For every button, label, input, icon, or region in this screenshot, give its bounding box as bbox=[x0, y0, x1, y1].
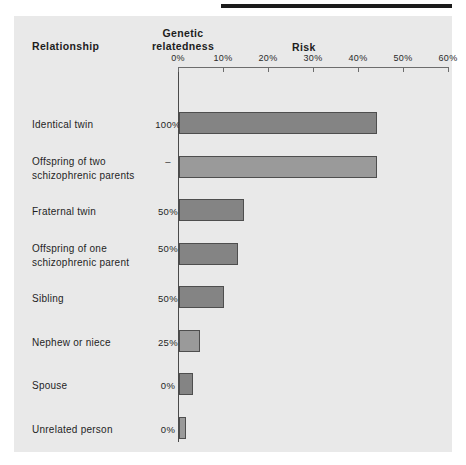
bar-risk bbox=[179, 112, 377, 134]
bar-risk bbox=[179, 417, 186, 439]
bar-risk bbox=[179, 199, 244, 221]
x-axis-tick-label: 0% bbox=[171, 53, 185, 63]
row-label-relationship: Nephew or niece bbox=[32, 336, 111, 350]
x-axis-tick bbox=[268, 67, 269, 72]
bar-risk bbox=[179, 286, 224, 308]
chart-panel: Relationship Genetic relatedness Risk 0%… bbox=[14, 16, 452, 452]
bar-risk bbox=[179, 373, 193, 395]
bar-risk bbox=[179, 243, 238, 265]
row-label-relationship: Unrelated person bbox=[32, 423, 113, 437]
x-axis-tick bbox=[313, 67, 314, 72]
x-axis-tick-label: 10% bbox=[214, 53, 233, 63]
x-axis-tick-label: 30% bbox=[304, 53, 323, 63]
x-axis-tick bbox=[358, 67, 359, 72]
row-label-relationship: Offspring of one schizophrenic parent bbox=[32, 242, 129, 269]
row-label-relationship: Spouse bbox=[32, 379, 67, 393]
figure-root: Relationship Genetic relatedness Risk 0%… bbox=[0, 0, 466, 465]
x-axis-tick bbox=[403, 67, 404, 72]
row-label-relationship: Offspring of two schizophrenic parents bbox=[32, 155, 135, 182]
top-rule-decoration bbox=[221, 4, 452, 8]
x-axis-tick-label: 50% bbox=[394, 53, 413, 63]
row-label-relationship: Fraternal twin bbox=[32, 205, 96, 219]
x-axis-tick bbox=[223, 67, 224, 72]
x-axis: 0%10%20%30%40%50%60% bbox=[14, 16, 452, 452]
bar-risk bbox=[179, 156, 377, 178]
row-value-genetic-relatedness: 0% bbox=[135, 424, 201, 435]
bar-risk bbox=[179, 330, 200, 352]
x-axis-tick bbox=[178, 67, 179, 72]
x-axis-tick-label: 60% bbox=[439, 53, 458, 63]
x-axis-tick-label: 40% bbox=[349, 53, 368, 63]
row-label-relationship: Sibling bbox=[32, 292, 64, 306]
x-axis-tick-label: 20% bbox=[259, 53, 278, 63]
x-axis-tick bbox=[448, 67, 449, 72]
row-label-relationship: Identical twin bbox=[32, 118, 93, 132]
